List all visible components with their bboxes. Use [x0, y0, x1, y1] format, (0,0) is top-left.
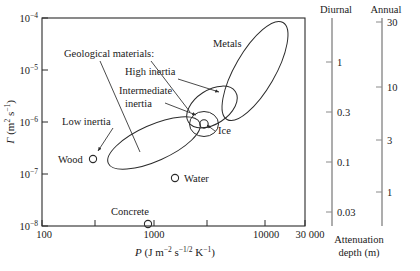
region-intermediate-inertia	[179, 77, 244, 136]
diurnal-scale-labels: 1 0.3 0.1 0.03	[337, 57, 355, 218]
plot-labels: Geological materials: High inertia Inter…	[58, 38, 242, 217]
label-wood: Wood	[58, 154, 84, 165]
annual-label-3: 3	[387, 135, 392, 146]
marker-ice	[200, 120, 208, 128]
annual-label-30: 30	[387, 17, 398, 28]
marker-wood	[89, 155, 96, 162]
diurnal-label-0.3: 0.3	[337, 107, 350, 118]
diurnal-scale-ticks	[326, 62, 332, 212]
label-ice: Ice	[218, 125, 231, 136]
arrow-low-inertia	[98, 128, 113, 151]
label-metals: Metals	[213, 38, 242, 49]
annual-scale-title: Annual	[371, 4, 402, 15]
attenuation-caption-line1: Attenuation	[334, 234, 384, 245]
x-tick-label-10000: 10000	[253, 229, 279, 240]
x-axis-ticks	[42, 220, 305, 226]
label-low-inertia: Low inertia	[62, 116, 111, 127]
x-tick-label-1000: 1000	[144, 229, 165, 240]
x-tick-label-100: 100	[36, 229, 52, 240]
x-axis-tick-labels: 100 1000 10000 30 000	[36, 229, 324, 240]
y-tick-exp-1e-8: −8	[30, 219, 38, 228]
diurnal-label-1: 1	[337, 57, 342, 68]
region-low-inertia	[101, 106, 207, 180]
thermal-inertia-chart: 10−4 10−5 10−6 10−7 10−8 100 1000 10000 …	[0, 0, 420, 271]
label-high-inertia: High inertia	[125, 66, 176, 77]
x-axis-title: P (J m−2 s−1/2 K−1)	[134, 245, 215, 259]
annual-label-10: 10	[387, 82, 398, 93]
label-geological-materials: Geological materials:	[64, 48, 154, 59]
annual-label-1: 1	[387, 187, 392, 198]
y-axis-symbol: Γ	[4, 137, 16, 145]
region-metals	[210, 13, 301, 130]
region-high-inertia	[190, 112, 219, 137]
y-tick-label-1e-4: 10−4	[20, 11, 39, 24]
y-tick-exp-1e-4: −4	[30, 11, 38, 20]
y-axis-title: Γ (m2 s−1)	[3, 100, 17, 145]
diurnal-label-0.03: 0.03	[337, 207, 355, 218]
annual-scale-labels: 30 10 3 1	[387, 17, 398, 198]
label-intermediate-inertia-line1: Intermediate	[119, 85, 172, 96]
y-tick-exp-1e-6: −6	[30, 115, 38, 124]
label-water: Water	[184, 173, 209, 184]
arrow-high-inertia	[178, 79, 219, 92]
y-tick-exp-1e-7: −7	[30, 167, 38, 176]
diurnal-label-0.1: 0.1	[337, 157, 350, 168]
annual-scale-ticks	[376, 22, 382, 192]
y-tick-exp-1e-5: −5	[30, 63, 38, 72]
arrow-intermediate-inertia	[165, 103, 196, 115]
x-axis-symbol: P	[134, 246, 142, 258]
label-intermediate-inertia-line2: inertia	[125, 98, 152, 109]
y-tick-label-1e-7: 10−7	[20, 167, 39, 180]
attenuation-caption-line2: depth (m)	[338, 247, 380, 259]
x-tick-label-30000: 30 000	[296, 229, 325, 240]
material-regions	[101, 13, 300, 180]
y-tick-label-1e-6: 10−6	[20, 115, 39, 128]
marker-water	[171, 174, 178, 181]
label-concrete: Concrete	[111, 206, 149, 217]
y-tick-label-1e-5: 10−5	[20, 63, 39, 76]
y-axis-tick-labels: 10−4 10−5 10−6 10−7 10−8	[20, 11, 39, 232]
diurnal-scale-title: Diurnal	[320, 4, 352, 15]
y-axis-ticks	[42, 18, 48, 226]
figure-root: 10−4 10−5 10−6 10−7 10−8 100 1000 10000 …	[0, 0, 420, 271]
attenuation-depth-caption: Attenuation depth (m)	[334, 234, 384, 259]
